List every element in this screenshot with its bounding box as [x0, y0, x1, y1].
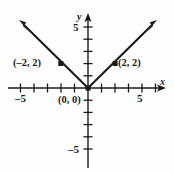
- x-tick-label-5: 5: [137, 93, 143, 104]
- point-marker-neg2-2: [58, 61, 63, 66]
- coordinate-plane: [0, 0, 174, 173]
- curve-right-arrowhead: [148, 20, 157, 31]
- point-label-origin: (0, 0): [58, 95, 81, 106]
- point-label-neg2-2: (–2, 2): [13, 58, 41, 69]
- x-tick-label-neg5: –5: [15, 93, 26, 104]
- x-axis-label: x: [160, 77, 165, 87]
- graph-figure: . . . .: [0, 0, 174, 173]
- point-marker-origin: [86, 86, 91, 91]
- point-marker-2-2: [113, 61, 118, 66]
- curve-left-arrowhead: [19, 20, 28, 31]
- point-label-2-2: (2, 2): [118, 58, 141, 69]
- y-tick-label-5: 5: [73, 22, 79, 33]
- y-tick-label-neg5: –5: [68, 144, 79, 155]
